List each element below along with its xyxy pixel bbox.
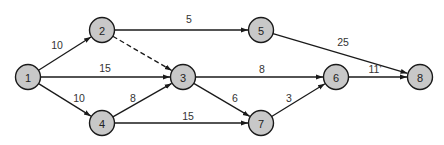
edge-label-2-5: 5 <box>186 13 192 25</box>
edge-label-4-7: 15 <box>182 110 194 122</box>
node-label: 6 <box>333 72 339 84</box>
node-label: 3 <box>180 72 186 84</box>
edge-3-7 <box>194 83 250 116</box>
node-label: 4 <box>99 118 105 130</box>
edge-label-6-8: 11' <box>369 63 382 75</box>
node-5: 5 <box>249 18 274 43</box>
edge-label-1-4: 10 <box>73 92 85 104</box>
edge-label-1-2: 10 <box>51 39 63 51</box>
node-2: 2 <box>90 18 115 43</box>
node-4: 4 <box>90 111 115 136</box>
node-label: 5 <box>258 25 264 37</box>
node-label: 8 <box>417 72 423 84</box>
edge-label-7-6: 3 <box>286 92 292 104</box>
edge-label-4-3: 8 <box>130 92 136 104</box>
edge-label-3-6: 8 <box>259 63 265 75</box>
edge-4-3 <box>113 83 172 116</box>
node-1: 1 <box>16 65 41 90</box>
node-label: 2 <box>99 25 105 37</box>
node-6: 6 <box>324 65 349 90</box>
edge-2-3 <box>113 36 172 70</box>
node-8: 8 <box>408 65 433 90</box>
edge-1-2 <box>39 37 91 70</box>
edge-label-3-7: 6 <box>232 92 238 104</box>
edges-group <box>39 30 408 123</box>
network-diagram: 10151058158632511' 12345678 <box>0 0 444 145</box>
node-label: 7 <box>258 118 264 130</box>
edge-label-5-8: 25 <box>337 36 349 48</box>
edge-7-6 <box>272 84 325 117</box>
node-7: 7 <box>249 111 274 136</box>
node-3: 3 <box>171 65 196 90</box>
edge-label-1-3: 15 <box>99 62 111 74</box>
node-label: 1 <box>25 72 31 84</box>
